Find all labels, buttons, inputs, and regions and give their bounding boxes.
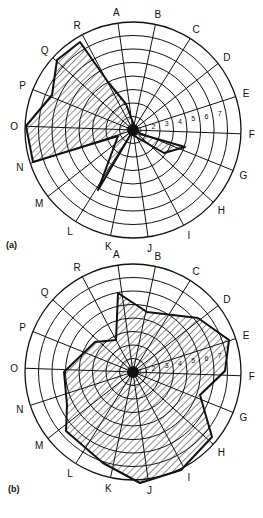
scale-label: 6 — [205, 355, 209, 362]
axis-label-b: B — [154, 251, 161, 262]
axis-label-r: R — [74, 20, 81, 31]
axis-label-a: A — [113, 7, 120, 18]
axis-label-m: M — [35, 198, 43, 209]
scale-label: 5 — [191, 115, 195, 122]
axis-label-j: J — [147, 243, 152, 254]
scale-label: 2 — [152, 365, 156, 372]
radar-chart-a: ABCDEFGHIJKLMNOPQR1234567 — [10, 7, 255, 254]
axis-label-q: Q — [41, 287, 49, 298]
radar-charts: ABCDEFGHIJKLMNOPQR1234567 ABCDEFGHIJKLMN… — [0, 0, 263, 518]
axis-label-a: A — [113, 249, 120, 260]
axis-label-q: Q — [41, 45, 49, 56]
spoke-h — [133, 130, 213, 202]
center-hub — [127, 366, 139, 378]
axis-label-h: H — [218, 205, 225, 216]
caption-a: (a) — [6, 240, 17, 250]
axis-label-f: F — [249, 371, 255, 382]
axis-label-f: F — [249, 129, 255, 140]
scale-label: 7 — [218, 352, 222, 359]
axis-label-l: L — [67, 468, 73, 479]
axis-label-d: D — [223, 294, 230, 305]
spoke-d — [133, 64, 218, 130]
axis-label-e: E — [243, 88, 250, 99]
axis-label-c: C — [192, 266, 199, 277]
axis-label-m: M — [35, 440, 43, 451]
axis-label-o: O — [10, 121, 18, 132]
axis-label-r: R — [74, 262, 81, 273]
axis-label-g: G — [239, 412, 247, 423]
scale-label: 5 — [191, 357, 195, 364]
spoke-c — [133, 38, 190, 130]
scale-label: 1 — [138, 368, 142, 375]
axis-label-l: L — [67, 226, 73, 237]
axis-label-i: I — [187, 472, 190, 483]
axis-label-n: N — [16, 162, 23, 173]
axis-label-b: B — [154, 9, 161, 20]
axis-label-h: H — [218, 447, 225, 458]
caption-b: (b) — [8, 484, 20, 494]
axis-label-k: K — [105, 241, 112, 252]
axis-label-k: K — [105, 483, 112, 494]
radar-chart-b: ABCDEFGHIJKLMNOPQR1234567 — [10, 249, 255, 496]
axis-label-i: I — [187, 230, 190, 241]
spoke-b — [133, 24, 155, 130]
scale-label: 7 — [218, 110, 222, 117]
scale-label: 3 — [165, 362, 169, 369]
scale-label: 3 — [165, 120, 169, 127]
axis-label-j: J — [147, 485, 152, 496]
axis-label-o: O — [10, 363, 18, 374]
scale-label: 6 — [205, 113, 209, 120]
axis-label-p: P — [19, 322, 26, 333]
axis-label-e: E — [243, 330, 250, 341]
scale-label: 2 — [152, 123, 156, 130]
axis-label-n: N — [16, 404, 23, 415]
axis-label-g: G — [239, 170, 247, 181]
scale-label: 4 — [178, 360, 182, 367]
axis-label-p: P — [19, 80, 26, 91]
scale-label: 4 — [178, 118, 182, 125]
axis-label-d: D — [223, 52, 230, 63]
axis-label-c: C — [192, 24, 199, 35]
scale-label: 1 — [138, 126, 142, 133]
